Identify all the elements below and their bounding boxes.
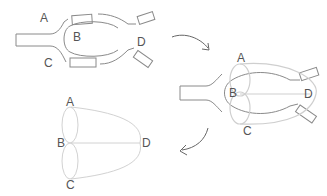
overlay-label-c: C — [243, 125, 252, 137]
map-label-b: B — [73, 31, 81, 43]
graph-panel — [62, 107, 141, 179]
map-label-a: A — [40, 12, 48, 24]
map-label-c: C — [44, 57, 53, 69]
map-panel — [16, 12, 155, 68]
overlay-label-a: A — [237, 52, 245, 64]
graph-label-b: B — [57, 137, 65, 149]
arrow-icon — [172, 35, 208, 48]
map-label-d: D — [137, 36, 146, 48]
graph-label-d: D — [142, 137, 151, 149]
diagram-canvas — [0, 0, 327, 196]
graph-label-c: C — [66, 179, 75, 191]
overlay-label-d: D — [304, 88, 313, 100]
overlay-label-b: B — [229, 87, 237, 99]
graph-label-a: A — [66, 96, 74, 108]
